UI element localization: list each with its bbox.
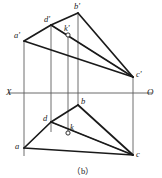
figure-caption: （b） (72, 164, 94, 176)
point-label-a_prime: a' (14, 31, 20, 40)
auxiliary-lines-group (51, 25, 133, 155)
point-label-d: d (43, 114, 47, 123)
triangle-edges-group (24, 13, 133, 155)
axis-label-o: O (147, 88, 154, 97)
descriptive-geometry-figure: X O a'd'b'k'c'bdkac （b） (0, 0, 162, 178)
edge-a-d (24, 122, 51, 148)
point-label-d_prime: d' (44, 15, 50, 24)
edge-b-c (78, 105, 133, 155)
point-label-k: k (70, 123, 74, 132)
point-label-c: c (136, 150, 140, 159)
axis-label-x: X (6, 88, 12, 97)
point-label-a: a (15, 142, 19, 151)
projection-lines-group (24, 13, 133, 156)
point-label-c_prime: c' (136, 70, 142, 79)
marker-k_prime (66, 33, 70, 37)
edge-d-b (51, 105, 78, 122)
point-label-k_prime: k' (64, 24, 70, 33)
edge-ap-dp (24, 25, 51, 41)
point-label-b_prime: b' (74, 2, 80, 11)
point-label-b: b (81, 97, 85, 106)
